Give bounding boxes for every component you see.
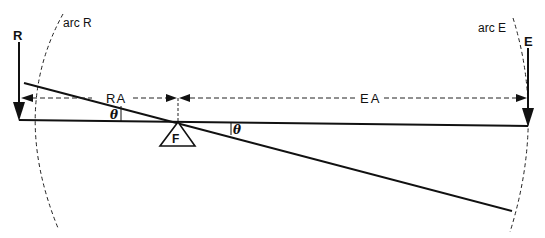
- label-theta-right: θ: [233, 123, 241, 137]
- lever-tilted: [24, 83, 512, 211]
- label-e: E: [524, 34, 533, 49]
- label-r: R: [13, 28, 23, 43]
- label-ra: RA: [106, 91, 126, 106]
- lever-level: [19, 120, 528, 126]
- label-arc-r: arc R: [63, 16, 92, 30]
- label-ea: EA: [360, 91, 381, 106]
- label-arc-e: arc E: [478, 21, 506, 35]
- resistance-arrow: [13, 42, 25, 121]
- effort-arrow: [522, 48, 534, 127]
- label-fulcrum: F: [172, 132, 179, 146]
- lever-diagram: R arc R arc E E RA EA F θ θ: [0, 0, 545, 238]
- label-theta-left: θ: [110, 108, 118, 122]
- dimension-line: [21, 94, 527, 122]
